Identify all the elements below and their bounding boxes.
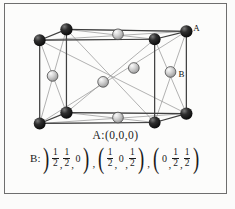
coord-group-3: ( 0 , 1 2 , 1 2 ) bbox=[151, 146, 201, 171]
fraction-half: 1 2 bbox=[184, 148, 191, 169]
fraction-half: 1 2 bbox=[172, 148, 179, 169]
atom-a-top-back-right bbox=[149, 33, 161, 45]
coord-zero: 0 bbox=[119, 153, 124, 164]
paren-close-1: ) bbox=[83, 146, 89, 171]
atom-label-b: B bbox=[178, 69, 184, 79]
atom-b-front bbox=[98, 77, 109, 88]
fraction-half: 1 2 bbox=[129, 148, 136, 169]
coord-group-2: ( 1 2 , 0 , 1 2 ) bbox=[96, 146, 146, 171]
fraction-half: 1 2 bbox=[107, 148, 114, 169]
atom-b-left bbox=[47, 71, 58, 82]
atom-a-top-front-left bbox=[34, 34, 46, 46]
atom-a-bot-front-right bbox=[180, 107, 192, 119]
comma: , bbox=[114, 158, 117, 171]
comma: , bbox=[60, 158, 63, 171]
figure-frame: A B A:(0,0,0) B: ) 1 2 , 1 2 , 0 ) , ( bbox=[4, 3, 227, 194]
coord-zero: 0 bbox=[162, 153, 167, 164]
atom-a-bot-back-right bbox=[149, 117, 161, 129]
caption-atom-b: B: ) 1 2 , 1 2 , 0 ) , ( 1 2 bbox=[5, 146, 226, 171]
atom-b-top bbox=[113, 29, 124, 40]
paren-open-1: ) bbox=[43, 146, 49, 171]
atom-a-bot-front-left bbox=[34, 118, 46, 130]
atom-a-bot-back-left bbox=[60, 106, 72, 118]
group-separator: , bbox=[147, 157, 150, 171]
comma: , bbox=[71, 158, 74, 171]
paren-close-2: ) bbox=[138, 146, 144, 171]
lattice-svg: A B bbox=[5, 4, 226, 130]
atom-b-right bbox=[165, 67, 176, 78]
caption-atom-a: A:(0,0,0) bbox=[5, 129, 226, 141]
fraction-half: 1 2 bbox=[52, 148, 59, 169]
comma: , bbox=[125, 158, 128, 171]
atom-a-top-front-right bbox=[180, 25, 192, 37]
paren-open-3: ( bbox=[153, 146, 159, 171]
comma: , bbox=[180, 158, 183, 171]
coord-group-1: ) 1 2 , 1 2 , 0 ) bbox=[41, 146, 91, 171]
paren-open-2: ( bbox=[98, 146, 104, 171]
paren-close-3: ) bbox=[193, 146, 199, 171]
comma: , bbox=[168, 158, 171, 171]
atom-b-back bbox=[128, 63, 139, 74]
atom-a-top-back-left bbox=[60, 23, 72, 35]
lattice-diagram: A B bbox=[5, 4, 226, 130]
coord-zero: 0 bbox=[75, 153, 80, 164]
caption-b-prefix: B: bbox=[30, 152, 40, 164]
atom-b-bottom bbox=[113, 112, 124, 123]
group-separator: , bbox=[92, 157, 95, 171]
fraction-half: 1 2 bbox=[63, 148, 70, 169]
atom-label-a: A bbox=[193, 23, 200, 33]
